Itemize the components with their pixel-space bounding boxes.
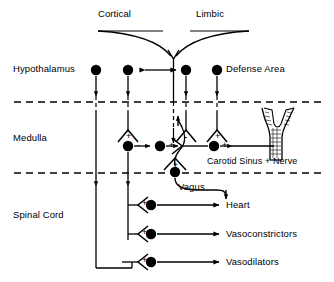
medulla-node-2 xyxy=(155,141,165,151)
hypothalamus-axon-1 xyxy=(96,76,132,268)
sign-medulla-plus-3: + xyxy=(169,141,174,150)
sign-spinal-plus-3: + xyxy=(142,256,147,265)
hypothalamus-node-2 xyxy=(123,65,133,75)
defense-area-label: Defense Area xyxy=(226,64,285,74)
sign-medulla-plus-4: + xyxy=(222,141,227,150)
spinal-cord-label: Spinal Cord xyxy=(13,210,64,220)
sign-baroreceptor-plus: + xyxy=(173,161,178,170)
sign-medulla-minus-1: - xyxy=(184,132,187,142)
heart-label: Heart xyxy=(226,200,250,210)
sign-spinal-plus-1: + xyxy=(142,199,147,208)
sign-spinal-plus-2: + xyxy=(142,228,147,237)
medulla-label: Medulla xyxy=(13,133,47,143)
carotid-sinus-illustration xyxy=(262,108,294,160)
spinal-node-vasodilator xyxy=(146,257,156,267)
sign-medulla-minus-2: - xyxy=(137,141,140,150)
medulla-node-3 xyxy=(209,141,219,151)
hypothalamus-node-3 xyxy=(181,65,191,75)
sign-medulla-plus-2: + xyxy=(215,132,220,141)
hypothalamus-node-4 xyxy=(212,65,222,75)
cortical-limbic-convergence-arrow xyxy=(98,31,249,59)
vasodilators-label: Vasodilators xyxy=(226,257,279,267)
vagus-label: Vagus xyxy=(178,182,205,192)
carotid-sinus-label: Carotid Sinus + Nerve xyxy=(207,157,297,166)
vasoconstrictors-label: Vasoconstrictors xyxy=(226,229,297,239)
figure-canvas: Cortical Limbic Hypothalamus Defense Are… xyxy=(0,0,334,282)
sign-medulla-plus-1: + xyxy=(126,132,131,141)
medulla-node-1 xyxy=(123,141,133,151)
cortical-label: Cortical xyxy=(98,9,131,19)
spinal-node-heart xyxy=(146,200,156,210)
hypothalamus-node-1 xyxy=(91,65,101,75)
hypothalamus-label: Hypothalamus xyxy=(13,64,75,74)
spinal-node-vasoconstrictor xyxy=(146,229,156,239)
limbic-label: Limbic xyxy=(196,9,224,19)
diagram-vector-layer xyxy=(0,0,334,282)
